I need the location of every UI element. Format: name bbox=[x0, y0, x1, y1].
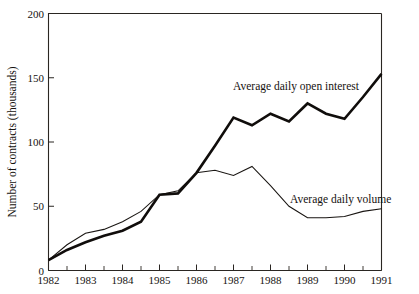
line-chart: 0 50 100 150 200 bbox=[0, 0, 419, 294]
y-axis-ticks bbox=[49, 14, 55, 271]
x-tick-label-1984: 1984 bbox=[112, 274, 135, 286]
plot-frame bbox=[49, 13, 382, 271]
chart-figure: 0 50 100 150 200 bbox=[0, 0, 419, 294]
x-tick-label-1987: 1987 bbox=[223, 274, 246, 286]
series-annotation-volume: Average daily volume bbox=[290, 193, 391, 206]
y-tick-label-100: 100 bbox=[28, 136, 45, 148]
x-axis-tick-labels: 1982 1983 1984 1985 1986 1987 1988 1989 … bbox=[38, 274, 393, 286]
y-tick-label-50: 50 bbox=[33, 200, 45, 212]
x-tick-label-1986: 1986 bbox=[186, 274, 209, 286]
x-tick-label-1988: 1988 bbox=[260, 274, 283, 286]
y-tick-label-200: 200 bbox=[28, 8, 45, 20]
y-axis-tick-labels: 0 50 100 150 200 bbox=[28, 8, 45, 277]
x-axis-minor-ticks bbox=[67, 266, 363, 271]
y-axis-title: Number of contracts (thousands) bbox=[6, 66, 19, 217]
x-tick-label-1990: 1990 bbox=[334, 274, 357, 286]
series-line-average-daily-volume bbox=[49, 166, 382, 260]
series-annotation-open-interest: Average daily open interest bbox=[233, 80, 360, 93]
series-line-average-daily-open-interest bbox=[49, 74, 382, 260]
x-tick-label-1989: 1989 bbox=[297, 274, 320, 286]
x-tick-label-1985: 1985 bbox=[149, 274, 172, 286]
x-tick-label-1982: 1982 bbox=[38, 274, 60, 286]
y-tick-label-150: 150 bbox=[28, 72, 45, 84]
x-tick-label-1991: 1991 bbox=[371, 274, 393, 286]
x-tick-label-1983: 1983 bbox=[75, 274, 98, 286]
